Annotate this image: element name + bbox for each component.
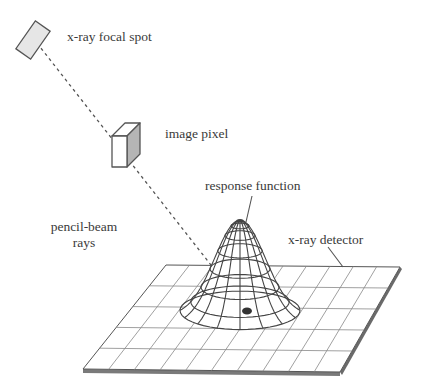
ray-impact-point: [242, 308, 252, 315]
detector-leader: [328, 247, 343, 267]
x-ray-focal-spot-icon: [16, 21, 50, 59]
label-image-pixel: image pixel: [165, 126, 228, 142]
image-pixel-cube-icon: [112, 123, 140, 167]
label-focal-spot: x-ray focal spot: [67, 29, 152, 45]
label-pencil-beam-rays: pencil-beam rays: [44, 219, 124, 250]
label-pencil-beam-line2: rays: [44, 235, 124, 251]
label-response-function: response function: [205, 178, 301, 194]
label-x-ray-detector: x-ray detector: [288, 232, 363, 248]
diagram-canvas: [0, 0, 421, 392]
response-function-leader: [246, 196, 252, 222]
label-pencil-beam-line1: pencil-beam: [44, 219, 124, 235]
